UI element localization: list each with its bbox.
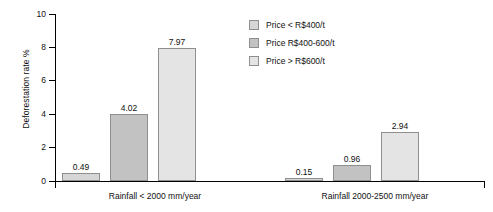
bar-value-label-2: 7.97	[158, 37, 196, 47]
bar-group1-price-high	[158, 48, 196, 181]
bar-group1-price-low	[62, 173, 100, 181]
x-axis-line	[55, 181, 485, 182]
x-axis-endcap-right	[484, 181, 485, 188]
legend-label-price-low: Price < R$400/t	[266, 20, 325, 30]
y-axis-title: Deforestation rate %	[21, 19, 31, 159]
legend-item-price-low: Price < R$400/t	[249, 17, 335, 32]
legend: Price < R$400/t Price R$400-600/t Price …	[249, 17, 335, 71]
x-group-label-rainfall-high: Rainfall 2000-2500 mm/year	[265, 191, 485, 201]
y-tick-label-4: 4	[24, 109, 46, 119]
y-tick-label-10: 10	[24, 9, 46, 19]
legend-swatch-icon-price-mid	[249, 38, 259, 48]
y-tick-6	[49, 80, 55, 81]
y-tick-8	[49, 47, 55, 48]
y-tick-2	[49, 147, 55, 148]
y-tick-10	[49, 14, 55, 15]
y-tick-label-8: 8	[24, 42, 46, 52]
legend-swatch-icon-price-low	[249, 20, 259, 30]
legend-item-price-high: Price > R$600/t	[249, 53, 335, 68]
legend-label-price-mid: Price R$400-600/t	[266, 38, 335, 48]
bar-value-label-1: 4.02	[110, 103, 148, 113]
bar-group2-price-high	[381, 132, 419, 181]
legend-swatch-icon-price-high	[249, 56, 259, 66]
x-axis-endcap-left	[55, 181, 56, 188]
bar-group1-price-mid	[110, 114, 148, 181]
bar-value-label-4: 0.96	[333, 154, 371, 164]
y-axis-line	[55, 14, 56, 181]
bar-chart: Deforestation rate % 10 8 6 4 2 0 0.49 4…	[0, 0, 493, 212]
y-tick-label-6: 6	[24, 75, 46, 85]
bar-value-label-3: 0.15	[285, 167, 323, 177]
bar-value-label-0: 0.49	[62, 162, 100, 172]
y-tick-label-2: 2	[24, 142, 46, 152]
y-tick-label-0: 0	[24, 176, 46, 186]
legend-label-price-high: Price > R$600/t	[266, 56, 325, 66]
legend-item-price-mid: Price R$400-600/t	[249, 35, 335, 50]
bar-value-label-5: 2.94	[381, 121, 419, 131]
bar-group2-price-mid	[333, 165, 371, 181]
x-group-label-rainfall-low: Rainfall < 2000 mm/year	[55, 191, 255, 201]
y-tick-4	[49, 114, 55, 115]
